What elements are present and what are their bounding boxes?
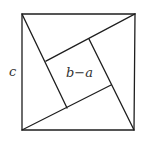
- triangle-left-hypotenuse: [22, 14, 67, 108]
- triangle-top-hypotenuse: [46, 14, 135, 61]
- triangle-right-hypotenuse: [89, 39, 134, 130]
- triangle-bottom-hypotenuse: [22, 85, 111, 130]
- pythagoras-square-diagram: c b−a: [0, 0, 143, 141]
- inner-square-label: b−a: [66, 65, 93, 80]
- side-label-c: c: [9, 64, 17, 79]
